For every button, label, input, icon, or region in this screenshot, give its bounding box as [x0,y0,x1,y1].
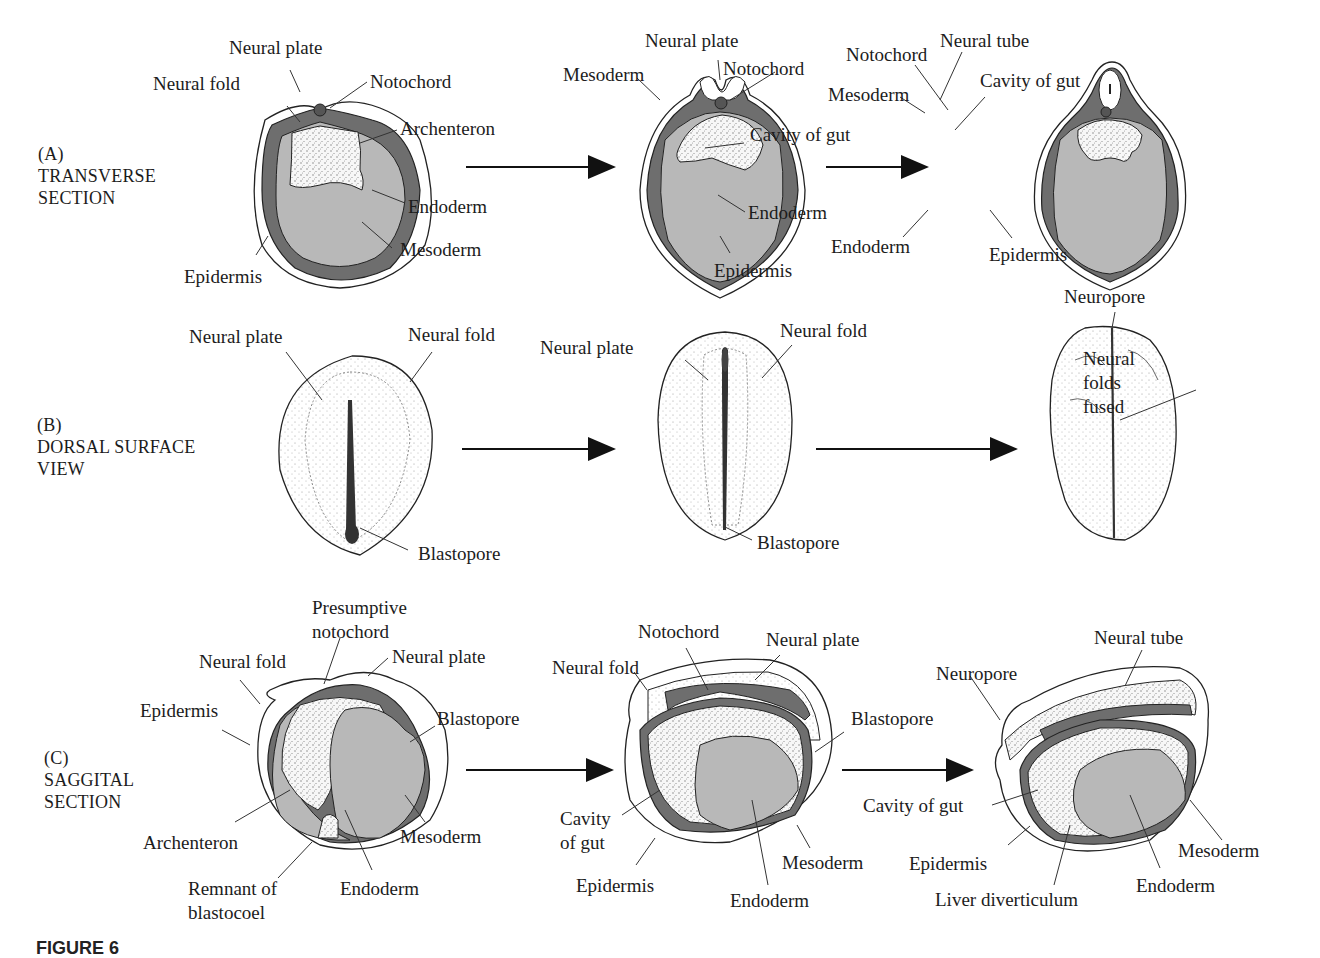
label-b2-neural-plate: Neural plate [540,337,633,359]
label-c2-epidermis: Epidermis [576,875,654,897]
label-a1-endoderm: Endoderm [408,196,487,218]
label-a3-epidermis: Epidermis [989,244,1067,266]
label-c2-blastopore: Blastopore [851,708,933,730]
dorsal-view-stage-1 [279,356,432,555]
row-a-title-line1: TRANSVERSE [38,165,156,187]
label-a1-neural-plate: Neural plate [229,37,322,59]
label-a2-cavity-of-gut: Cavity of gut [750,124,850,146]
label-a2-endoderm: Endoderm [748,202,827,224]
saggital-section-stage-2 [625,659,832,843]
label-b1-neural-plate: Neural plate [189,326,282,348]
label-b2-neural-fold: Neural fold [780,320,867,342]
row-c-title-line1: SAGGITAL [44,769,134,791]
label-b3-neuropore: Neuropore [1064,286,1145,308]
label-c1-notochord: notochord [312,621,389,643]
label-c1-remnant-of: Remnant of [188,878,277,900]
row-b-title-line1: DORSAL SURFACE [37,436,195,458]
label-a3-endoderm: Endoderm [831,236,910,258]
row-c-tag: (C) [44,747,134,769]
label-c3-mesoderm: Mesoderm [1178,840,1259,862]
row-b-title: (B) DORSAL SURFACE VIEW [37,414,195,480]
label-c1-archenteron: Archenteron [143,832,238,854]
label-c3-liver-diverticulum: Liver diverticulum [935,889,1078,911]
label-c1-epidermis: Epidermis [140,700,218,722]
row-b-title-line2: VIEW [37,458,195,480]
label-c2-neural-plate: Neural plate [766,629,859,651]
saggital-section-stage-1 [258,673,448,850]
label-c2-neural-fold: Neural fold [552,657,639,679]
label-c2-notochord: Notochord [638,621,719,643]
label-c3-epidermis: Epidermis [909,853,987,875]
label-a2-neural-plate: Neural plate [645,30,738,52]
label-c1-mesoderm: Mesoderm [400,826,481,848]
label-b3-fused: fused [1083,396,1124,418]
label-a1-notochord: Notochord [370,71,451,93]
label-b1-blastopore: Blastopore [418,543,500,565]
row-a-tag: (A) [38,143,156,165]
label-b2-blastopore: Blastopore [757,532,839,554]
label-c1-presumptive: Presumptive [312,597,407,619]
label-a1-mesoderm: Mesoderm [400,239,481,261]
label-a2-mesoderm: Mesoderm [563,64,644,86]
label-a1-archenteron: Archenteron [400,118,495,140]
label-c3-neural-tube: Neural tube [1094,627,1183,649]
label-a3-notochord: Notochord [846,44,927,66]
row-a-title: (A) TRANSVERSE SECTION [38,143,156,209]
label-c3-endoderm: Endoderm [1136,875,1215,897]
label-c1-neural-fold: Neural fold [199,651,286,673]
label-c3-cavity-of-gut: Cavity of gut [863,795,963,817]
label-c2-endoderm: Endoderm [730,890,809,912]
label-c1-blastopore: Blastopore [437,708,519,730]
label-a1-neural-fold: Neural fold [153,73,240,95]
label-c2-mesoderm: Mesoderm [782,852,863,874]
label-a2-notochord: Notochord [723,58,804,80]
label-b1-neural-fold: Neural fold [408,324,495,346]
dorsal-view-stage-2 [658,332,792,540]
saggital-section-stage-3 [995,667,1208,851]
label-c1-blastocoel: blastocoel [188,902,265,924]
label-b3-folds: folds [1083,372,1121,394]
label-a2-epidermis: Epidermis [714,260,792,282]
label-c1-neural-plate: Neural plate [392,646,485,668]
label-a3-mesoderm: Mesoderm [828,84,909,106]
row-a-title-line2: SECTION [38,187,156,209]
row-b-tag: (B) [37,414,195,436]
row-c-title: (C) SAGGITAL SECTION [44,747,134,813]
label-c1-endoderm: Endoderm [340,878,419,900]
label-c2-cavity: Cavity [560,808,611,830]
label-a1-epidermis: Epidermis [184,266,262,288]
figure-caption-partial: FIGURE 6 [36,938,119,958]
label-c2-of-gut: of gut [560,832,605,854]
label-b3-neural: Neural [1083,348,1135,370]
label-c3-neuropore: Neuropore [936,663,1017,685]
label-a3-cavity-of-gut: Cavity of gut [980,70,1080,92]
row-c-title-line2: SECTION [44,791,134,813]
label-a3-neural-tube: Neural tube [940,30,1029,52]
